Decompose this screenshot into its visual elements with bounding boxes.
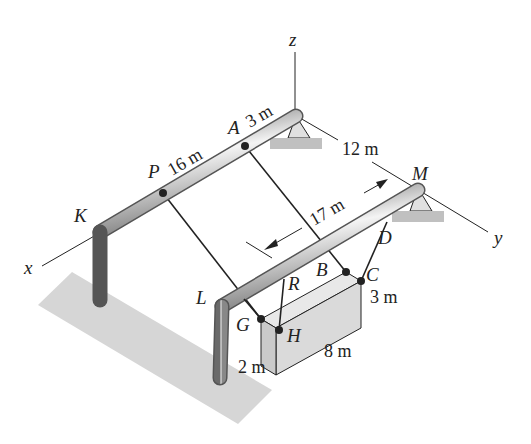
point-h [275,326,283,334]
point-p [159,189,167,197]
arrow-left-icon [264,239,278,250]
label-h: H [286,325,302,346]
label-p: P [147,161,160,182]
label-a: A [226,117,240,138]
point-b [342,268,350,276]
label-r: R [287,273,300,294]
label-b: B [316,259,328,280]
dim-12m: 12 m [342,139,379,159]
label-g: G [236,314,250,335]
dim-17m-line-right [364,184,380,193]
dim-2m: 2 m [238,357,266,377]
label-x: x [23,257,33,278]
diagram-canvas: z x y K P A M D B C R L G H 16 m 3 m 12 … [0,0,531,444]
label-d: D [377,227,392,248]
label-k: K [73,205,88,226]
dim-3m-crate: 3 m [370,287,398,307]
label-y: y [492,227,503,248]
arrow-right-icon [376,179,388,189]
label-m: M [411,163,429,184]
point-a [241,142,249,150]
point-c [357,277,365,285]
dim-17m: 17 m [306,194,348,230]
label-l: L [195,287,207,308]
dim-8m: 8 m [324,341,352,361]
label-c: C [366,264,379,285]
point-g [257,315,265,323]
statics-diagram: z x y K P A M D B C R L G H 16 m 3 m 12 … [0,0,531,444]
label-z: z [288,29,297,50]
dim-17m-tick-left [246,242,272,258]
